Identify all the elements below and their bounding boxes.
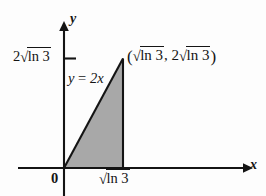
point-y-coefficient: 2 <box>172 47 180 63</box>
radical-sign-icon: √ <box>99 171 106 187</box>
point-x-radicand: ln 3 <box>140 46 164 63</box>
x-tick-radical: √ln 3 <box>99 171 130 186</box>
equation-rhs: 2x <box>90 70 104 86</box>
math-figure: y x 2√ln 3 0 √ln 3 y = 2x (√ln 3, 2√ln 3… <box>0 0 266 196</box>
equation-lhs: y <box>68 70 74 86</box>
y-axis-name: y <box>70 12 76 26</box>
vertex-point-label: (√ln 3, 2√ln 3) <box>127 46 216 63</box>
y-tick-radical: √ln 3 <box>20 49 51 64</box>
x-tick-radicand: ln 3 <box>106 169 130 186</box>
x-axis-tick-label: √ln 3 <box>99 171 130 186</box>
equation-operator: = <box>78 70 86 86</box>
graph-canvas <box>0 0 266 196</box>
radical-sign-icon: √ <box>20 49 27 65</box>
y-tick-radicand: ln 3 <box>27 47 51 64</box>
line-equation-label: y = 2x <box>68 71 104 86</box>
radical-sign-icon: √ <box>133 48 140 64</box>
radical-sign-icon: √ <box>179 48 186 64</box>
y-axis-tick-label: 2√ln 3 <box>13 49 51 64</box>
y-axis-arrowhead <box>59 21 69 31</box>
open-paren: ( <box>127 47 133 66</box>
origin-label: 0 <box>51 171 58 186</box>
point-y-radicand: ln 3 <box>186 46 210 63</box>
x-axis-name: x <box>250 158 257 172</box>
point-y-radical: √ln 3 <box>179 48 210 63</box>
point-x-radical: √ln 3 <box>133 48 164 63</box>
close-paren: ) <box>210 47 216 66</box>
coordinate-comma: , <box>164 47 168 63</box>
